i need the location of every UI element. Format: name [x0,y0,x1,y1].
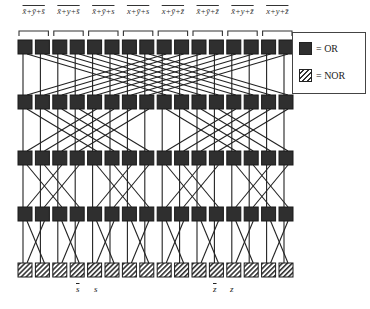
or-gate-icon [244,207,258,221]
or-gate-icon [18,95,32,109]
or-gate-icon [262,151,276,165]
clause-label: x̄+y+s̄ [52,6,86,16]
nor-gate-icon [262,263,276,277]
clause-label: x+y+z̄ [260,6,294,16]
legend-label-nor: = NOR [316,70,345,81]
or-gate-icon [227,95,241,109]
or-gate-icon [279,207,293,221]
or-gate-icon [105,40,119,54]
or-gate-icon [70,95,84,109]
nor-gate-icon [175,263,189,277]
or-gate-icon [88,151,102,165]
pair-bracket [54,31,83,36]
or-gate-icon [244,95,258,109]
or-gate-icon [70,207,84,221]
pair-bracket [263,31,292,36]
or-gate-icon [227,40,241,54]
or-gate-icon [227,207,241,221]
nor-gate-swatch-icon [299,69,312,82]
or-gate-swatch-icon [299,42,312,55]
or-gate-icon [122,151,136,165]
or-gate-icon [279,40,293,54]
pair-brackets [19,31,292,36]
or-gate-icon [105,151,119,165]
or-gate-icon [227,151,241,165]
clause-label: x̄+ȳ+z̄ [191,6,225,16]
variable-label: z [230,284,234,294]
or-gate-icon [140,95,154,109]
nor-gate-icon [209,263,223,277]
or-gate-icon [262,40,276,54]
or-gate-icon [18,40,32,54]
nor-gate-icon [35,263,49,277]
or-gate-icon [18,207,32,221]
or-gate-icon [157,151,171,165]
or-gate-icon [209,151,223,165]
or-gate-icon [53,151,67,165]
or-gate-icon [35,95,49,109]
or-gate-icon [35,40,49,54]
nor-gate-icon [70,263,84,277]
nor-gate-icon [192,263,206,277]
legend-item-nor: = NOR [299,69,345,82]
legend: = OR = NOR [292,32,366,94]
or-gate-icon [175,95,189,109]
nor-gate-icon [140,263,154,277]
or-gate-icon [244,151,258,165]
or-gate-icon [53,95,67,109]
pair-bracket [193,31,222,36]
or-gate-icon [157,40,171,54]
or-gate-icon [105,95,119,109]
or-gate-icon [140,207,154,221]
nor-gate-icon [227,263,241,277]
legend-item-or: = OR [299,42,338,55]
or-gate-icon [88,95,102,109]
clause-label: x̄+ȳ+s̄ [17,6,51,16]
or-gate-icon [122,40,136,54]
nor-gate-icon [244,263,258,277]
pair-bracket [19,31,48,36]
or-gate-icon [209,95,223,109]
pair-bracket [228,31,257,36]
or-gate-icon [192,151,206,165]
or-gate-icon [192,40,206,54]
or-gate-icon [262,95,276,109]
or-gate-icon [157,95,171,109]
or-gate-icon [105,207,119,221]
or-gate-icon [88,207,102,221]
or-gate-icon [157,207,171,221]
gates [18,40,293,277]
pair-bracket [89,31,118,36]
or-gate-icon [279,95,293,109]
nor-gate-icon [157,263,171,277]
pair-bracket [123,31,152,36]
or-gate-icon [35,151,49,165]
or-gate-icon [88,40,102,54]
nor-gate-icon [122,263,136,277]
or-gate-icon [70,40,84,54]
nor-gate-icon [88,263,102,277]
or-gate-icon [175,151,189,165]
nor-gate-icon [279,263,293,277]
or-gate-icon [244,40,258,54]
or-gate-icon [209,40,223,54]
clause-label: x̄+y+z̄ [226,6,260,16]
variable-label: s [76,284,80,294]
or-gate-icon [53,207,67,221]
clause-label: x+ȳ+s [121,6,155,16]
nor-gate-icon [105,263,119,277]
or-gate-icon [209,207,223,221]
or-gate-icon [175,40,189,54]
or-gate-icon [18,151,32,165]
pair-bracket [158,31,187,36]
clause-label: x̄+ȳ+s [86,6,120,16]
or-gate-icon [192,207,206,221]
nor-gate-icon [18,263,32,277]
clause-label: x+ȳ+z̄ [156,6,190,16]
or-gate-icon [35,207,49,221]
or-gate-icon [53,40,67,54]
or-gate-icon [122,207,136,221]
or-gate-icon [140,151,154,165]
or-gate-icon [122,95,136,109]
legend-label-or: = OR [316,43,338,54]
